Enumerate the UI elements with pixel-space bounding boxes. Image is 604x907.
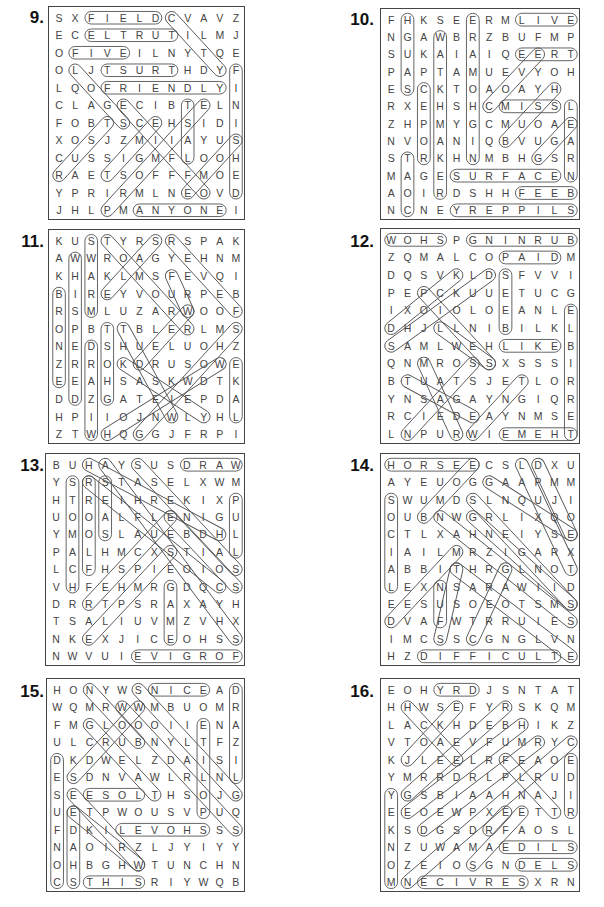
grid-letter[interactable]: A <box>180 132 196 150</box>
grid-letter[interactable]: R <box>81 473 97 490</box>
grid-letter[interactable]: X <box>51 132 67 150</box>
grid-letter[interactable]: E <box>497 804 513 822</box>
grid-letter[interactable]: U <box>48 508 64 525</box>
grid-letter[interactable]: B <box>563 184 579 201</box>
grid-letter[interactable]: T <box>196 44 212 62</box>
grid-letter[interactable]: B <box>383 372 399 390</box>
grid-letter[interactable]: L <box>130 786 146 804</box>
grid-letter[interactable]: R <box>114 839 130 857</box>
grid-letter[interactable]: A <box>131 250 147 268</box>
grid-letter[interactable]: L <box>99 27 115 45</box>
grid-letter[interactable]: B <box>83 114 99 132</box>
grid-letter[interactable]: A <box>514 473 530 490</box>
grid-letter[interactable]: Z <box>51 355 67 373</box>
grid-letter[interactable]: P <box>48 543 64 560</box>
grid-letter[interactable]: H <box>65 856 81 874</box>
grid-letter[interactable]: W <box>448 804 464 822</box>
grid-letter[interactable]: R <box>448 681 464 699</box>
grid-letter[interactable]: R <box>83 355 99 373</box>
grid-letter[interactable]: D <box>196 62 212 80</box>
grid-letter[interactable]: W <box>383 231 399 249</box>
grid-letter[interactable]: U <box>67 232 83 250</box>
grid-letter[interactable]: N <box>179 856 195 874</box>
grid-letter[interactable]: P <box>530 473 546 490</box>
grid-letter[interactable]: Q <box>212 874 228 892</box>
grid-letter[interactable]: R <box>228 699 244 717</box>
grid-letter[interactable]: L <box>416 751 432 769</box>
grid-letter[interactable]: U <box>514 115 530 132</box>
grid-letter[interactable]: J <box>164 425 180 443</box>
grid-letter[interactable]: S <box>497 456 513 473</box>
grid-letter[interactable]: E <box>195 716 211 734</box>
grid-letter[interactable]: L <box>448 319 464 337</box>
grid-letter[interactable]: R <box>465 202 481 219</box>
grid-letter[interactable]: R <box>146 491 162 508</box>
grid-letter[interactable]: S <box>432 11 448 28</box>
grid-letter[interactable]: N <box>432 578 448 595</box>
grid-letter[interactable]: F <box>164 167 180 185</box>
grid-letter[interactable]: S <box>64 613 80 630</box>
grid-letter[interactable]: N <box>514 408 530 426</box>
grid-letter[interactable]: S <box>465 491 481 508</box>
grid-letter[interactable]: N <box>147 681 163 699</box>
grid-letter[interactable]: L <box>563 98 579 115</box>
grid-letter[interactable]: I <box>416 184 432 201</box>
grid-letter[interactable]: S <box>99 337 115 355</box>
grid-letter[interactable]: U <box>115 302 131 320</box>
grid-letter[interactable]: Q <box>546 699 562 717</box>
grid-letter[interactable]: V <box>432 266 448 284</box>
grid-letter[interactable]: N <box>416 202 432 219</box>
grid-letter[interactable]: W <box>448 508 464 525</box>
grid-letter[interactable]: I <box>228 751 244 769</box>
grid-letter[interactable]: E <box>563 302 579 320</box>
grid-letter[interactable]: J <box>212 786 228 804</box>
grid-letter[interactable]: D <box>67 390 83 408</box>
grid-letter[interactable]: I <box>67 285 83 303</box>
grid-letter[interactable]: P <box>448 231 464 249</box>
grid-letter[interactable]: G <box>162 578 178 595</box>
grid-letter[interactable]: R <box>195 456 211 473</box>
grid-letter[interactable]: C <box>67 27 83 45</box>
grid-letter[interactable]: L <box>179 473 195 490</box>
grid-letter[interactable]: L <box>67 62 83 80</box>
grid-letter[interactable]: Z <box>83 390 99 408</box>
grid-letter[interactable]: O <box>179 630 195 647</box>
grid-letter[interactable]: K <box>179 491 195 508</box>
grid-letter[interactable]: H <box>416 231 432 249</box>
grid-letter[interactable]: P <box>195 804 211 822</box>
grid-letter[interactable]: I <box>195 491 211 508</box>
grid-letter[interactable]: D <box>514 856 530 874</box>
grid-letter[interactable]: J <box>481 372 497 390</box>
grid-letter[interactable]: M <box>481 150 497 167</box>
grid-letter[interactable]: I <box>228 267 244 285</box>
grid-letter[interactable]: J <box>481 681 497 699</box>
grid-letter[interactable]: E <box>383 595 399 612</box>
grid-letter[interactable]: S <box>399 821 415 839</box>
grid-letter[interactable]: A <box>383 560 399 577</box>
grid-letter[interactable]: M <box>228 473 244 490</box>
grid-letter[interactable]: H <box>563 63 579 80</box>
grid-letter[interactable]: U <box>546 769 562 787</box>
grid-letter[interactable]: R <box>83 184 99 202</box>
grid-letter[interactable]: I <box>514 526 530 543</box>
grid-letter[interactable]: A <box>514 80 530 97</box>
grid-letter[interactable]: B <box>416 508 432 525</box>
grid-letter[interactable]: A <box>481 786 497 804</box>
grid-letter[interactable]: E <box>49 769 65 787</box>
grid-letter[interactable]: E <box>130 647 146 664</box>
grid-letter[interactable]: R <box>481 578 497 595</box>
grid-letter[interactable]: I <box>546 578 562 595</box>
grid-letter[interactable]: S <box>180 355 196 373</box>
grid-letter[interactable]: R <box>81 491 97 508</box>
grid-letter[interactable]: R <box>481 508 497 525</box>
grid-letter[interactable]: I <box>228 79 244 97</box>
grid-letter[interactable]: U <box>399 508 415 525</box>
grid-letter[interactable]: S <box>432 630 448 647</box>
grid-letter[interactable]: L <box>383 425 399 443</box>
grid-letter[interactable]: I <box>514 508 530 525</box>
grid-letter[interactable]: S <box>115 373 131 391</box>
grid-letter[interactable]: L <box>113 526 129 543</box>
grid-letter[interactable]: H <box>416 681 432 699</box>
grid-letter[interactable]: I <box>195 508 211 525</box>
grid-letter[interactable]: L <box>530 372 546 390</box>
